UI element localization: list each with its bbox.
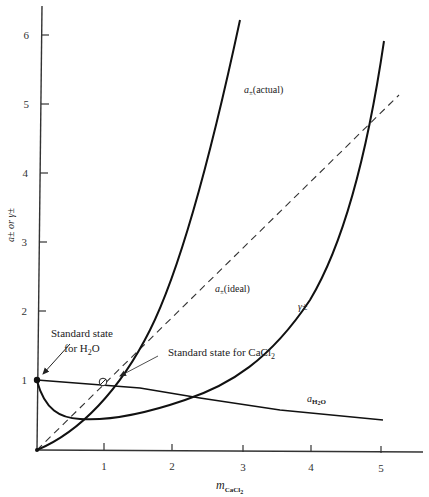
x-axis-label: mCaCl2 bbox=[216, 478, 243, 495]
ideal-activity-line bbox=[37, 95, 399, 450]
y-tick-labels: 6 5 4 3 2 1 bbox=[22, 29, 30, 386]
label-gamma: γ± bbox=[298, 301, 308, 312]
y-tick-6: 6 bbox=[24, 29, 30, 41]
y-axis-label: a± or γ± bbox=[5, 208, 16, 242]
annotation-standard-state-h2o-line1: Standard state bbox=[51, 327, 113, 339]
label-actual: a±(actual) bbox=[244, 84, 283, 97]
y-tick-3: 3 bbox=[22, 236, 28, 248]
arrow-standard-state-h2o bbox=[43, 344, 70, 374]
x-tick-2: 2 bbox=[169, 460, 175, 472]
y-tick-4: 4 bbox=[23, 167, 29, 179]
actual-activity-curve bbox=[37, 20, 240, 450]
x-tick-1: 1 bbox=[101, 460, 107, 472]
x-tick-5: 5 bbox=[378, 462, 384, 474]
x-axis bbox=[37, 450, 423, 452]
label-ideal: a±(ideal) bbox=[215, 283, 250, 296]
y-tick-2: 2 bbox=[22, 305, 28, 317]
label-water-activity: aH2O bbox=[307, 393, 326, 406]
gamma-curve bbox=[37, 41, 384, 419]
origin-point bbox=[35, 448, 39, 452]
chart: 6 5 4 3 2 1 1 2 3 4 5 mCaCl2 a± or γ± a±… bbox=[0, 0, 429, 497]
x-tick-3: 3 bbox=[240, 461, 246, 473]
standard-state-h2o-point bbox=[34, 377, 40, 383]
y-tick-5: 5 bbox=[24, 98, 30, 110]
arrow-standard-state-cacl2 bbox=[120, 356, 158, 376]
x-tick-4: 4 bbox=[308, 461, 314, 473]
y-tick-1: 1 bbox=[22, 374, 28, 386]
x-tick-labels: 1 2 3 4 5 bbox=[101, 460, 384, 474]
